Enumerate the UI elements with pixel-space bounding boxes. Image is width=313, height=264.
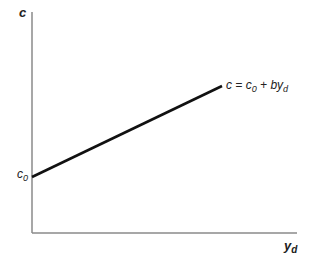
intercept-label: c0 — [17, 167, 28, 183]
chart-canvas: c yd c0 c = c0 + byd — [0, 0, 313, 264]
consumption-function-line — [32, 86, 222, 177]
y-axis-label: c — [19, 5, 27, 20]
x-axis-label: yd — [283, 238, 298, 255]
equation-label: c = c0 + byd — [226, 78, 289, 94]
